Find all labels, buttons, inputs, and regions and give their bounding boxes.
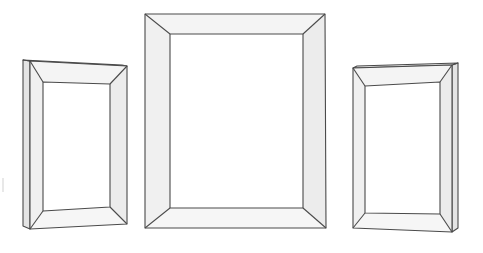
frame-opening [170,34,303,208]
frame-bevel-right [110,66,127,224]
frame-side-thickness [452,63,458,232]
frame-bevel-right [440,65,452,232]
frame-bevel-top [145,14,325,34]
frame-opening [43,82,110,211]
frame-bevel-right [303,14,326,228]
left-edge-smudge [2,178,4,192]
frame-bevel-bottom [145,208,326,228]
frames-canvas [0,0,483,253]
frame-bevel-left [145,14,170,228]
frames-layer [23,14,458,232]
frame-bevel-left [353,68,365,228]
center-frame [145,14,326,228]
left-frame [23,60,127,229]
frame-opening [365,82,440,214]
right-frame [353,63,458,232]
frame-bevel-left [30,61,43,229]
frame-side-thickness [23,60,30,229]
frames-illustration [0,0,483,253]
artifacts-layer [2,178,4,192]
